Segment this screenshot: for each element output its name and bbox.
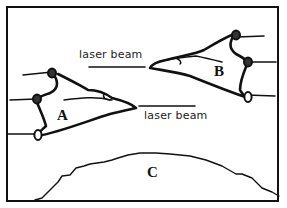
spaceship-b [150,31,276,103]
diagram-drawing [0,0,287,208]
laser-beam-top-label: laser beam [79,48,143,61]
laser-beam-bottom-label: laser beam [144,109,208,122]
planet-c-label: C [147,164,158,181]
spaceship-a [8,69,136,141]
ship-b-label: B [214,63,224,80]
ship-a-label: A [57,107,68,124]
